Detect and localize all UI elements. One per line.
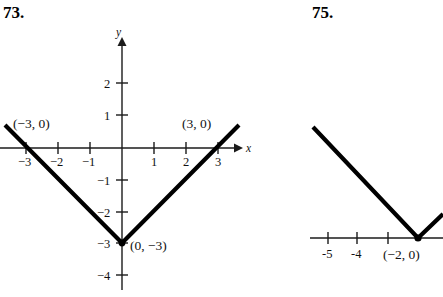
x-tick-label-neg3-73: −3 (18, 155, 31, 169)
x-tick-label-1-73: 1 (151, 155, 157, 169)
x-tick-label-neg1-73: −1 (82, 155, 95, 169)
x-tick-label-2-73: 2 (183, 155, 189, 169)
y-tick-label-neg4-73: −4 (97, 269, 111, 283)
point-label-0-neg3-73: (0, −3) (130, 238, 167, 253)
y-tick-label-1-73: 1 (104, 109, 110, 123)
graph-75: -5 -4 (−2, 0) (310, 127, 443, 262)
absolute-value-curve-75 (313, 127, 443, 238)
x-tick-label-neg4-75: -4 (351, 247, 362, 261)
x-axis-arrowhead-73 (234, 144, 243, 153)
y-axis-arrowhead-73 (118, 37, 127, 46)
y-tick-label-neg2-73: −2 (97, 206, 110, 220)
point-label-neg3-0-73: (−3, 0) (13, 116, 50, 131)
vertex-point-73 (119, 240, 126, 247)
y-tick-label-2-73: 2 (104, 77, 110, 91)
point-label-3-0-73: (3, 0) (182, 116, 211, 131)
y-tick-label-neg1-73: −1 (97, 174, 110, 188)
x-tick-label-3-73: 3 (215, 155, 221, 169)
vertex-point-75 (414, 234, 421, 241)
x-axis-label-73: x (245, 142, 252, 154)
graph-73: −3 −2 −1 1 2 3 2 1 −1 −2 −3 −4 x y (−3, … (0, 26, 252, 290)
y-tick-label-neg3-73: −3 (97, 237, 110, 251)
textbook-answer-figure: 73. 75. (0, 0, 443, 297)
x-tick-label-neg2-73: −2 (50, 155, 63, 169)
x-tick-label-neg5-75: -5 (322, 247, 332, 261)
graphs-canvas: −3 −2 −1 1 2 3 2 1 −1 −2 −3 −4 x y (−3, … (0, 0, 443, 297)
point-label-neg2-0-75: (−2, 0) (383, 247, 420, 262)
y-axis-label-73: y (115, 26, 122, 39)
